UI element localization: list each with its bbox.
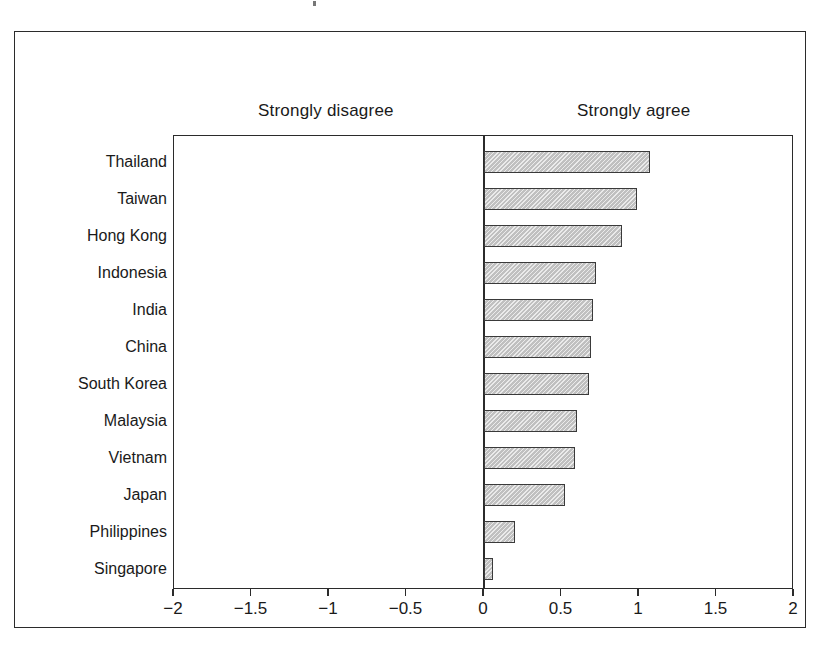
bar-row bbox=[174, 440, 792, 477]
x-tick-mark bbox=[637, 589, 638, 596]
x-tick-mark bbox=[560, 589, 561, 596]
bar-hong-kong bbox=[484, 225, 622, 247]
y-axis-label-taiwan: Taiwan bbox=[27, 180, 167, 217]
y-axis-label-japan: Japan bbox=[27, 476, 167, 513]
x-tick-label: −1 bbox=[318, 599, 337, 619]
figure-frame: Strongly disagree Strongly agree Thailan… bbox=[14, 31, 806, 628]
y-axis-label-malaysia: Malaysia bbox=[27, 402, 167, 439]
annotation-strongly-agree: Strongly agree bbox=[577, 101, 690, 121]
bar-row bbox=[174, 403, 792, 440]
x-tick-mark bbox=[172, 589, 173, 596]
bar-south-korea bbox=[484, 373, 589, 395]
bar-row bbox=[174, 144, 792, 181]
x-tick-mark bbox=[482, 589, 483, 596]
annotation-strongly-disagree: Strongly disagree bbox=[258, 101, 394, 121]
x-tick-label: 2 bbox=[788, 599, 797, 619]
plot-area bbox=[173, 135, 793, 589]
bar-row bbox=[174, 329, 792, 366]
y-axis-label-india: India bbox=[27, 291, 167, 328]
bar-vietnam bbox=[484, 447, 575, 469]
x-tick-label: −1.5 bbox=[234, 599, 268, 619]
x-tick-label: 1.5 bbox=[704, 599, 728, 619]
bar-row bbox=[174, 551, 792, 588]
bar-row bbox=[174, 255, 792, 292]
bar-india bbox=[484, 299, 593, 321]
y-axis-label-south-korea: South Korea bbox=[27, 365, 167, 402]
x-tick-mark bbox=[405, 589, 406, 596]
x-tick-label: 1 bbox=[633, 599, 642, 619]
y-axis-label-singapore: Singapore bbox=[27, 550, 167, 587]
bar-japan bbox=[484, 484, 565, 506]
x-tick-label: 0.5 bbox=[549, 599, 573, 619]
y-axis-label-thailand: Thailand bbox=[27, 143, 167, 180]
bar-row bbox=[174, 514, 792, 551]
x-tick-mark bbox=[327, 589, 328, 596]
bar-row bbox=[174, 181, 792, 218]
x-tick-label: 0 bbox=[478, 599, 487, 619]
bar-row bbox=[174, 366, 792, 403]
x-axis: −2−1.5−1−0.500.511.52 bbox=[173, 589, 793, 635]
bar-malaysia bbox=[484, 410, 577, 432]
x-tick-label: −2 bbox=[163, 599, 182, 619]
y-axis-label-vietnam: Vietnam bbox=[27, 439, 167, 476]
bar-row bbox=[174, 292, 792, 329]
x-tick-mark bbox=[250, 589, 251, 596]
bar-singapore bbox=[484, 558, 493, 580]
y-axis-category-labels: ThailandTaiwanHong KongIndonesiaIndiaChi… bbox=[19, 135, 167, 589]
x-tick-label: −0.5 bbox=[389, 599, 423, 619]
bar-taiwan bbox=[484, 188, 637, 210]
y-axis-label-hong-kong: Hong Kong bbox=[27, 217, 167, 254]
bar-china bbox=[484, 336, 591, 358]
scan-artifact-speck bbox=[313, 1, 316, 6]
y-axis-label-philippines: Philippines bbox=[27, 513, 167, 550]
bar-row bbox=[174, 218, 792, 255]
bar-row bbox=[174, 477, 792, 514]
bar-thailand bbox=[484, 151, 650, 173]
x-tick-mark bbox=[792, 589, 793, 596]
x-tick-mark bbox=[715, 589, 716, 596]
bar-philippines bbox=[484, 521, 515, 543]
y-axis-label-china: China bbox=[27, 328, 167, 365]
bar-indonesia bbox=[484, 262, 596, 284]
y-axis-label-indonesia: Indonesia bbox=[27, 254, 167, 291]
